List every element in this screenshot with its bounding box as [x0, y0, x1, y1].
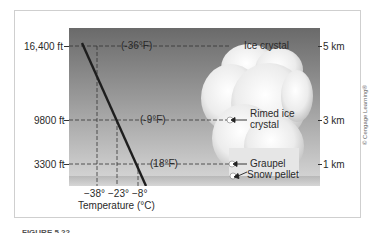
altitude-label-3300ft: 3300 ft — [34, 159, 65, 170]
rimed-ice-label-line2: crystal — [250, 119, 279, 130]
temp-tick-minus38: −38° — [84, 188, 105, 199]
left-tick — [64, 164, 69, 165]
temp-tick-minus8: −8° — [132, 188, 147, 199]
plot-area: (-36°F) (-9°F) (18°F) Ice crystal Rimed … — [69, 28, 320, 186]
fahrenheit-label-16400: (-36°F) — [121, 40, 152, 51]
snow-pellet-label: Snow pellet — [247, 169, 299, 180]
right-tick — [318, 120, 322, 121]
copyright-notice: © Cengage Learning® — [362, 85, 368, 145]
left-tick — [64, 120, 69, 121]
x-axis-title: Temperature (°C) — [78, 200, 155, 211]
right-tick — [318, 164, 322, 165]
altitude-label-16400ft: 16,400 ft — [24, 41, 63, 52]
temperature-profile-line — [82, 43, 146, 186]
rimed-ice-label-line1: Rimed ice — [250, 108, 294, 119]
ice-crystal-label: Ice crystal — [244, 40, 289, 51]
graupel-label: Graupel — [250, 158, 286, 169]
right-tick — [318, 46, 322, 47]
altitude-label-5km: 5 km — [323, 41, 345, 52]
temp-tick-minus23: −23° — [108, 188, 129, 199]
altitude-label-1km: 1 km — [323, 159, 345, 170]
left-tick — [64, 46, 69, 47]
fahrenheit-label-9800: (-9°F) — [140, 114, 166, 125]
altitude-label-3km: 3 km — [323, 115, 345, 126]
altitude-label-9800ft: 9800 ft — [34, 115, 65, 126]
fahrenheit-label-3300: (18°F) — [150, 158, 178, 169]
figure-caption: FIGURE 5.22 ... — [22, 228, 79, 233]
